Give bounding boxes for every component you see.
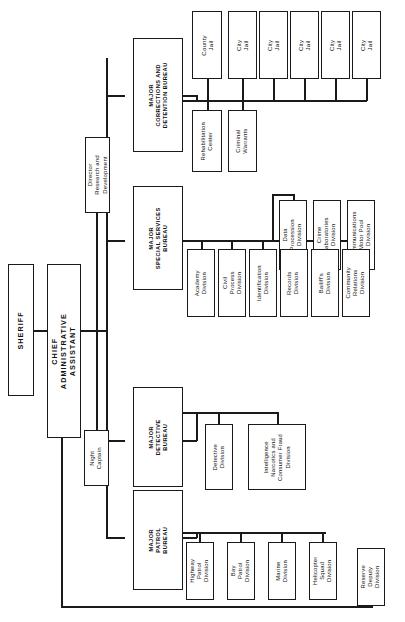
node-major-special-services-bureau-label: MAJORSPECIAL SERVICESBUREAU bbox=[148, 207, 168, 269]
node-major-detective-bureau-label: MAJORDETECTIVEBUREAU bbox=[148, 419, 168, 455]
connector-trunk-corrections bbox=[106, 95, 125, 97]
node-city-jail-5[interactable]: CityJail bbox=[352, 11, 381, 79]
node-academy-division-label: AcademyDivision bbox=[194, 270, 208, 296]
node-records-division-label: RecordsDivision bbox=[287, 271, 301, 294]
connector-bay-patrol-division bbox=[240, 532, 242, 542]
node-community-relations-division-label: CommunityRelationsDivision bbox=[345, 267, 367, 299]
node-major-special-services-bureau[interactable]: MAJORSPECIAL SERVICESBUREAU bbox=[133, 186, 183, 290]
node-academy-division[interactable]: AcademyDivision bbox=[187, 249, 215, 317]
connector-highway-patrol-division bbox=[199, 532, 201, 542]
node-city-jail-1-label: CityJail bbox=[235, 39, 250, 50]
node-rehabilitation-center[interactable]: RehabilitationCenter bbox=[192, 110, 222, 172]
connector-special-bus bbox=[183, 240, 371, 242]
node-city-jail-4[interactable]: CityJail bbox=[321, 11, 350, 79]
connector-reserve-bus bbox=[61, 606, 373, 608]
connector-reserve-riser bbox=[61, 438, 63, 607]
org-chart: SHERIFF CHIEFADMINISTRATIVEASSISTANT Dir… bbox=[0, 0, 405, 622]
connector-city-jail-5 bbox=[366, 79, 368, 101]
node-identification-division-label: IdentificationDivision bbox=[256, 265, 270, 301]
node-night-captain[interactable]: NightCaptain bbox=[84, 430, 109, 486]
node-sheriff-label: SHERIFF bbox=[17, 311, 26, 349]
node-data-processing-division-label: DataProcessionDivision bbox=[282, 219, 304, 250]
connector-city-jail-4 bbox=[335, 79, 337, 101]
connector-city-jail-2 bbox=[273, 79, 275, 101]
connector-director-stub-h bbox=[96, 330, 107, 332]
node-reserve-deputy-division-label: ReserveDeputyDivision bbox=[360, 565, 382, 588]
node-highway-patrol-division-label: HighwayPatrolDivision bbox=[189, 559, 211, 583]
connector-detective-riser bbox=[196, 412, 198, 441]
node-city-jail-4-label: CityJail bbox=[328, 39, 343, 50]
connector-sheriff-chief bbox=[34, 330, 47, 332]
node-highway-patrol-division[interactable]: HighwayPatrolDivision bbox=[186, 542, 214, 600]
node-detective-division-label: DetectiveDivision bbox=[212, 444, 226, 470]
connector-patrol-bus bbox=[183, 532, 326, 534]
node-city-jail-5-label: CityJail bbox=[359, 39, 374, 50]
node-criminal-warrants[interactable]: CriminalWarrants bbox=[228, 110, 257, 172]
node-bailiffs-division-label: Bailiff'sDivision bbox=[318, 272, 332, 294]
connector-academy-division bbox=[201, 240, 203, 249]
node-chief-administrative-assistant-label: CHIEFADMINISTRATIVEASSISTANT bbox=[51, 313, 77, 389]
connector-marine-division bbox=[281, 532, 283, 542]
node-marine-division-label: MarineDivision bbox=[275, 560, 289, 582]
node-city-jail-2[interactable]: CityJail bbox=[259, 11, 288, 79]
node-identification-division[interactable]: IdentificationDivision bbox=[249, 249, 277, 317]
node-helicopter-squad-division[interactable]: HelicopterSquadDivision bbox=[309, 542, 337, 600]
node-major-patrol-bureau[interactable]: MAJORPATROLBUREAU bbox=[133, 490, 183, 590]
connector-intelligence-division bbox=[277, 412, 279, 424]
connector-detective-division bbox=[218, 412, 220, 424]
connector-special-support-riser bbox=[272, 194, 274, 241]
connector-city-jail-1 bbox=[242, 79, 244, 101]
connector-county-jail bbox=[207, 79, 209, 101]
node-crime-laboratories-division-label: CrimeLaboratoriesDivision bbox=[316, 217, 338, 252]
connector-criminal-warrants bbox=[242, 100, 244, 110]
connector-civil-process-division bbox=[231, 240, 233, 249]
node-city-jail-2-label: CityJail bbox=[266, 39, 281, 50]
connector-patrol-bus-entry bbox=[183, 537, 197, 539]
node-night-captain-label: NightCaptain bbox=[89, 447, 104, 469]
connector-corrections-bus-entry bbox=[183, 95, 197, 97]
node-major-corrections-detention-bureau-label: MAJORCORRECTIONS ANDDETENTION BUREAU bbox=[148, 62, 168, 128]
connector-trunk-special bbox=[106, 240, 125, 242]
node-major-patrol-bureau-label: MAJORPATROLBUREAU bbox=[148, 527, 168, 554]
node-city-jail-3-label: CityJail bbox=[297, 39, 312, 50]
node-marine-division[interactable]: MarineDivision bbox=[268, 542, 296, 600]
node-bay-patrol-division-label: BayPatrolDivision bbox=[230, 560, 252, 582]
node-records-division[interactable]: RecordsDivision bbox=[280, 249, 308, 317]
node-intelligence-narcotics-consumer-fraud-division-label: IntelligenceNarcotics andConsumer FraudD… bbox=[263, 434, 292, 481]
node-civil-process-division-label: CivilProcessDivision bbox=[221, 272, 243, 295]
connector-special-support-bus bbox=[272, 194, 294, 196]
node-major-detective-bureau[interactable]: MAJORDETECTIVEBUREAU bbox=[133, 387, 183, 487]
node-sheriff[interactable]: SHERIFF bbox=[8, 264, 34, 396]
node-civil-process-division[interactable]: CivilProcessDivision bbox=[218, 249, 246, 317]
node-director-research-development-label: DirectorResearch andDevelopment bbox=[87, 155, 109, 195]
node-bay-patrol-division[interactable]: BayPatrolDivision bbox=[227, 542, 255, 600]
node-rehabilitation-center-label: RehabilitationCenter bbox=[200, 122, 214, 161]
node-chief-administrative-assistant[interactable]: CHIEFADMINISTRATIVEASSISTANT bbox=[47, 264, 81, 438]
connector-city-jail-3 bbox=[304, 79, 306, 101]
node-helicopter-squad-division-label: HelicopterSquadDivision bbox=[312, 557, 334, 586]
node-bailiffs-division[interactable]: Bailiff'sDivision bbox=[311, 249, 339, 317]
connector-trunk-patrol bbox=[106, 537, 125, 539]
node-county-jail-label: CountyJail bbox=[200, 35, 215, 56]
connector-patrol-riser bbox=[196, 532, 198, 538]
connector-rehabilitation-center bbox=[207, 100, 209, 110]
connector-identification-division bbox=[262, 240, 264, 249]
node-intelligence-narcotics-consumer-fraud-division[interactable]: IntelligenceNarcotics andConsumer FraudD… bbox=[248, 424, 306, 490]
connector-director-stub-v bbox=[96, 213, 98, 330]
node-director-research-development[interactable]: DirectorResearch andDevelopment bbox=[85, 137, 110, 213]
connector-corrections-bus bbox=[183, 100, 367, 102]
node-community-relations-division[interactable]: CommunityRelationsDivision bbox=[342, 249, 370, 317]
connector-helicopter-squad-division bbox=[322, 532, 324, 542]
node-detective-division[interactable]: DetectiveDivision bbox=[205, 424, 233, 490]
node-city-jail-3[interactable]: CityJail bbox=[290, 11, 319, 79]
connector-detective-bus-entry bbox=[183, 440, 197, 442]
node-city-jail-1[interactable]: CityJail bbox=[228, 11, 257, 79]
node-criminal-warrants-label: CriminalWarrants bbox=[235, 128, 249, 153]
node-reserve-deputy-division[interactable]: ReserveDeputyDivision bbox=[357, 548, 385, 606]
node-major-corrections-detention-bureau[interactable]: MAJORCORRECTIONS ANDDETENTION BUREAU bbox=[133, 38, 183, 152]
node-county-jail[interactable]: CountyJail bbox=[192, 11, 222, 79]
